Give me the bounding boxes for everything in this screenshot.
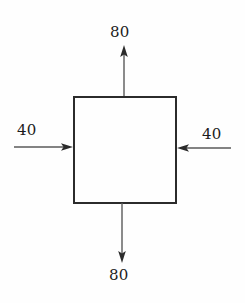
- force-arrow-left: [14, 143, 73, 151]
- force-label-bottom: 80: [109, 268, 129, 283]
- force-label-left: 40: [17, 123, 37, 138]
- force-arrow-bottom: [118, 203, 126, 263]
- force-arrow-top: [120, 45, 128, 96]
- square-block: [74, 97, 176, 203]
- free-body-diagram-svg: [0, 0, 245, 303]
- force-label-right: 40: [202, 127, 222, 142]
- force-arrow-right: [177, 144, 231, 152]
- figure-canvas: 80 80 40 40: [0, 0, 245, 303]
- force-label-top: 80: [110, 25, 130, 40]
